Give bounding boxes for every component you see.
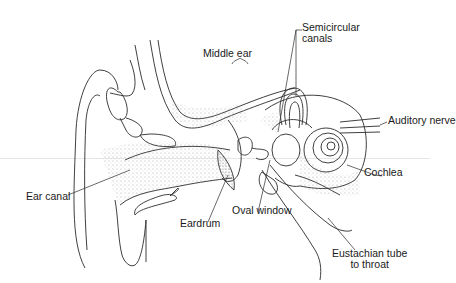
pointer-eardrum: [208, 175, 228, 222]
label-eustachian-line2: to throat: [332, 259, 407, 270]
label-semicircular-canals: Semicircular canals: [302, 22, 360, 44]
vestibule: [272, 134, 300, 166]
pointer-auditory-nerve: [380, 122, 387, 125]
label-ear-canal: Ear canal: [26, 191, 70, 202]
label-cochlea: Cochlea: [364, 167, 403, 178]
pointer-semicircular: [278, 30, 302, 132]
label-eardrum: Eardrum: [180, 218, 220, 229]
label-semicircular-line2: canals: [302, 33, 360, 44]
label-middle-ear: Middle ear: [203, 48, 252, 59]
label-eustachian-tube: Eustachian tube to throat: [332, 248, 407, 270]
stippled-shading: [100, 100, 360, 205]
auditory-nerve-drawing: [340, 118, 380, 133]
label-auditory-nerve: Auditory nerve: [388, 115, 456, 126]
label-oval-window: Oval window: [232, 205, 292, 216]
pointer-eustachian: [328, 218, 355, 250]
